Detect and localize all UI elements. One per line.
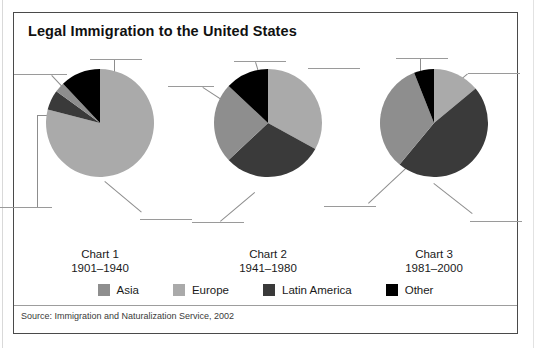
legend-swatch-latin-america xyxy=(263,284,275,296)
legend-item-latin-america: Latin America xyxy=(263,284,352,296)
legend-item-europe: Europe xyxy=(173,284,229,296)
pie-svg-1 xyxy=(44,67,156,179)
pie-svg-3 xyxy=(378,67,490,179)
scan-edge-left xyxy=(2,0,3,348)
legend-item-other: Other xyxy=(386,284,434,296)
leader-line-c1-latin-v xyxy=(37,115,38,207)
chart-3: Chart 3 1981–2000 xyxy=(350,55,518,270)
pie-chart-2 xyxy=(212,67,324,179)
source-note: Source: Immigration and Naturalization S… xyxy=(21,311,234,321)
figure-title: Legal Immigration to the United States xyxy=(28,23,297,39)
pie-svg-2 xyxy=(212,67,324,179)
charts-row: Chart 1 1901–1940 Chart 2 xyxy=(14,55,517,270)
chart-1-caption: Chart 1 1901–1940 xyxy=(16,247,184,275)
scan-edge-right xyxy=(533,0,534,348)
leader-line-c2-latin xyxy=(220,192,255,222)
legend-label-europe: Europe xyxy=(192,284,229,296)
chart-2-caption: Chart 2 1941–1980 xyxy=(184,247,352,275)
legend-swatch-asia xyxy=(98,284,110,296)
chart-1-name: Chart 1 xyxy=(81,248,119,260)
chart-3-name: Chart 3 xyxy=(415,248,453,260)
source-divider xyxy=(14,305,517,306)
legend-label-latin-america: Latin America xyxy=(282,284,352,296)
legend-label-other: Other xyxy=(405,284,434,296)
answer-blank-c2-left xyxy=(168,86,214,87)
legend-swatch-europe xyxy=(173,284,185,296)
chart-2-name: Chart 2 xyxy=(249,248,287,260)
leader-line-c1-europe xyxy=(104,181,141,213)
leader-line-c3-latin xyxy=(433,183,472,214)
answer-blank-c3-top xyxy=(396,58,448,59)
answer-blank-c1-top xyxy=(90,59,142,60)
answer-blank-c3-right-bottom xyxy=(470,221,522,222)
legend-label-asia: Asia xyxy=(117,284,139,296)
chart-1: Chart 1 1901–1940 xyxy=(16,55,184,270)
chart-2-period: 1941–1980 xyxy=(184,261,352,275)
answer-blank-c2-bottom xyxy=(192,222,244,223)
figure-frame: Legal Immigration to the United States xyxy=(13,12,518,334)
figure-page: Legal Immigration to the United States xyxy=(0,0,537,348)
chart-1-period: 1901–1940 xyxy=(16,261,184,275)
chart-3-caption: Chart 3 1981–2000 xyxy=(350,247,518,275)
pie-chart-3 xyxy=(378,67,490,179)
chart-2: Chart 2 1941–1980 xyxy=(184,55,352,270)
pie-chart-1 xyxy=(44,67,156,179)
legend-swatch-other xyxy=(386,284,398,296)
answer-blank-c2-top xyxy=(234,61,286,62)
answer-blank-c3-left xyxy=(324,206,376,207)
legend-item-asia: Asia xyxy=(98,284,139,296)
answer-blank-c1-left-lower xyxy=(0,207,52,208)
legend: Asia Europe Latin America Other xyxy=(14,279,517,301)
chart-3-period: 1981–2000 xyxy=(350,261,518,275)
